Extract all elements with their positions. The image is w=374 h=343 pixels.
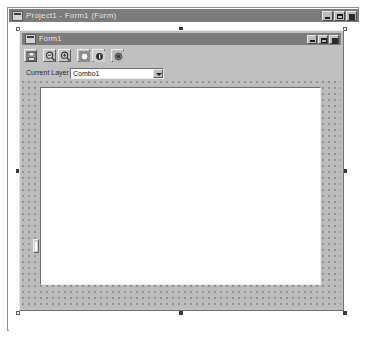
outer-window-client: Form1	[9, 22, 359, 331]
outer-titlebar[interactable]: Project1 - Form1 (Form)	[9, 9, 359, 22]
form1-window-controls[interactable]	[307, 35, 339, 44]
close-button[interactable]	[346, 11, 357, 21]
resize-handle-bottom-center[interactable]	[179, 311, 183, 315]
minimize-button[interactable]	[307, 35, 317, 44]
minimize-button[interactable]	[322, 11, 333, 21]
form1-titlebar[interactable]: Form1	[22, 33, 341, 45]
chevron-down-icon[interactable]	[153, 69, 163, 78]
vertical-slider[interactable]	[33, 239, 39, 253]
resize-handle-bottom-left[interactable]	[16, 311, 20, 315]
maximize-button[interactable]	[334, 11, 345, 21]
maximize-button[interactable]	[318, 35, 328, 44]
form-design-surface[interactable]	[22, 81, 341, 308]
circle-light-icon[interactable]	[77, 49, 90, 62]
form1-title: Form1	[39, 33, 62, 45]
current-layer-row: Current Layer Combo1	[26, 67, 336, 79]
form-toolbar[interactable]	[22, 46, 341, 64]
current-layer-value: Combo1	[71, 69, 99, 78]
project-form-window[interactable]: Project1 - Form1 (Form) Form1	[7, 7, 359, 331]
toolbar-group-modes	[75, 49, 105, 62]
zoom-out-icon[interactable]	[43, 49, 56, 62]
form1-window[interactable]: Form1	[19, 30, 344, 311]
drawing-canvas[interactable]	[40, 87, 321, 285]
circle-dark-icon[interactable]	[111, 49, 124, 62]
zoom-in-icon[interactable]	[58, 49, 71, 62]
current-layer-combobox[interactable]: Combo1	[70, 68, 164, 79]
current-layer-label: Current Layer	[26, 68, 70, 78]
toolbar-group-file	[22, 49, 37, 62]
outer-window-controls[interactable]	[322, 11, 357, 21]
vb-form-icon	[25, 34, 36, 44]
save-icon[interactable]	[24, 49, 37, 62]
resize-handle-bottom-right[interactable]	[343, 311, 347, 315]
toolbar-group-target	[109, 49, 124, 62]
slider-thumb[interactable]	[35, 242, 37, 251]
outer-window-title: Project1 - Form1 (Form)	[26, 9, 116, 22]
vb-form-icon	[12, 11, 23, 21]
circle-info-icon[interactable]	[92, 49, 105, 62]
close-button[interactable]	[329, 35, 339, 44]
toolbar-group-zoom	[41, 49, 71, 62]
